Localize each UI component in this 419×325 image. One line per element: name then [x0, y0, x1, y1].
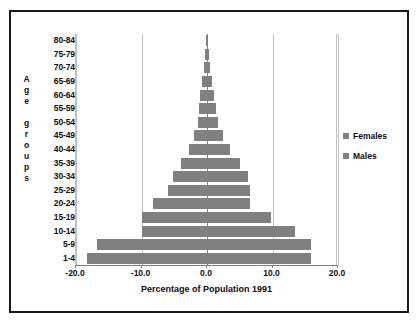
- legend-label: Females: [353, 131, 387, 141]
- bar-row: [76, 212, 336, 223]
- y-axis-tick-label: 60-64: [54, 90, 75, 101]
- x-axis-tick-label: -20.0: [52, 268, 98, 278]
- y-axis-tick-label: 1-4: [63, 253, 75, 264]
- y-axis-tick-label: 75-79: [54, 49, 75, 60]
- bar-row: [76, 49, 336, 60]
- y-axis-tick-label: 25-29: [54, 185, 75, 196]
- bar-males-35-39: [181, 158, 207, 169]
- y-axis-tick-label: 80-84: [54, 35, 75, 46]
- bar-females-70-74: [207, 62, 210, 73]
- y-axis-tick-label: 70-74: [54, 62, 75, 73]
- bar-females-1-4: [207, 253, 311, 264]
- bar-row: [76, 226, 336, 237]
- bar-females-55-59: [207, 103, 216, 114]
- bar-row: [76, 76, 336, 87]
- bar-row: [76, 253, 336, 264]
- bar-females-75-79: [207, 49, 209, 60]
- bar-males-15-19: [142, 212, 208, 223]
- bar-row: [76, 185, 336, 196]
- bar-females-25-29: [207, 185, 250, 196]
- y-axis-tick-label: 65-69: [54, 76, 75, 87]
- bar-males-50-54: [198, 117, 207, 128]
- bar-females-35-39: [207, 158, 240, 169]
- bar-row: [76, 144, 336, 155]
- y-axis-tick-labels: 80-8475-7970-7465-6960-6455-5950-5445-49…: [31, 34, 75, 265]
- bar-females-30-34: [207, 171, 248, 182]
- bar-females-40-44: [207, 144, 230, 155]
- chart-legend: FemalesMales: [343, 128, 403, 168]
- bar-row: [76, 117, 336, 128]
- bar-males-55-59: [199, 103, 207, 114]
- bar-row: [76, 158, 336, 169]
- y-axis-tick-label: 10-14: [54, 226, 75, 237]
- bar-males-20-24: [153, 198, 207, 209]
- bar-row: [76, 35, 336, 46]
- bar-row: [76, 90, 336, 101]
- bar-row: [76, 62, 336, 73]
- y-axis-tick-label: 55-59: [54, 103, 75, 114]
- plot-area: [75, 34, 337, 265]
- bar-females-5-9: [207, 239, 311, 250]
- bar-males-5-9: [97, 239, 207, 250]
- x-axis-tick-label: 0.0: [183, 268, 229, 278]
- bar-row: [76, 130, 336, 141]
- bar-females-20-24: [207, 198, 250, 209]
- bar-males-1-4: [87, 253, 207, 264]
- bar-males-40-44: [189, 144, 207, 155]
- bar-row: [76, 103, 336, 114]
- y-axis-tick-label: 35-39: [54, 158, 75, 169]
- bar-females-65-69: [207, 76, 212, 87]
- square-swatch-icon: [343, 153, 349, 159]
- x-axis-tick-label: 20.0: [314, 268, 360, 278]
- bar-males-60-64: [200, 90, 207, 101]
- y-axis-tick-label: 50-54: [54, 117, 75, 128]
- bar-males-25-29: [168, 185, 207, 196]
- y-axis-tick-label: 15-19: [54, 212, 75, 223]
- legend-label: Males: [353, 151, 377, 161]
- legend-item-females[interactable]: Females: [343, 128, 403, 143]
- population-pyramid-chart: Agegroups 80-8475-7970-7465-6960-6455-59…: [11, 12, 407, 311]
- bar-males-30-34: [173, 171, 207, 182]
- bar-row: [76, 198, 336, 209]
- bar-females-60-64: [207, 90, 214, 101]
- bar-males-10-14: [142, 226, 208, 237]
- y-axis-tick-label: 45-49: [54, 130, 75, 141]
- screenshot-root: Agegroups 80-8475-7970-7465-6960-6455-59…: [0, 0, 419, 325]
- bar-females-45-49: [207, 130, 223, 141]
- bar-females-10-14: [207, 226, 295, 237]
- bar-row: [76, 171, 336, 182]
- bar-row: [76, 239, 336, 250]
- bar-females-15-19: [207, 212, 271, 223]
- x-axis-tick-label: 10.0: [249, 268, 295, 278]
- bar-males-45-49: [194, 130, 207, 141]
- bar-females-80-84: [207, 35, 208, 46]
- bar-females-50-54: [207, 117, 218, 128]
- x-axis-tick-label: -10.0: [118, 268, 164, 278]
- square-swatch-icon: [343, 133, 349, 139]
- y-axis-tick-label: 40-44: [54, 144, 75, 155]
- y-axis-tick-label: 30-34: [54, 171, 75, 182]
- gridline: [338, 34, 339, 265]
- legend-item-males[interactable]: Males: [343, 148, 403, 163]
- x-axis-title: Percentage of Population 1991: [75, 284, 338, 294]
- y-axis-tick-label: 5-9: [63, 239, 75, 250]
- y-axis-tick-label: 20-24: [54, 198, 75, 209]
- figure-frame: Agegroups 80-8475-7970-7465-6960-6455-59…: [9, 10, 409, 313]
